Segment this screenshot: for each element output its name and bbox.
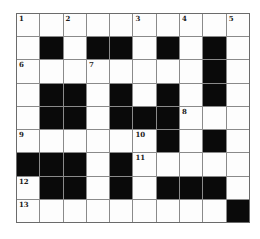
grid-cell[interactable] [157, 14, 179, 36]
grid-cell[interactable] [17, 37, 39, 59]
grid-cell[interactable] [203, 107, 225, 129]
grid-cell[interactable] [17, 107, 39, 129]
grid-cell[interactable] [227, 177, 249, 199]
grid-cell[interactable] [133, 84, 155, 106]
grid-cell[interactable] [40, 200, 62, 222]
page-background: { "puzzle": { "type": "crossword-grid", … [0, 0, 260, 239]
grid-cell[interactable]: 13 [17, 200, 39, 222]
grid-cell[interactable] [133, 60, 155, 82]
grid-cell[interactable] [180, 130, 202, 152]
grid-cell[interactable] [203, 153, 225, 175]
grid-cell[interactable] [180, 37, 202, 59]
clue-number: 1 [19, 14, 24, 23]
black-cell [64, 84, 86, 106]
crossword-grid: 12345678910111213 [16, 13, 250, 223]
black-cell [203, 130, 225, 152]
grid-cell[interactable] [64, 37, 86, 59]
grid-cell[interactable] [87, 177, 109, 199]
grid-cell[interactable]: 10 [133, 130, 155, 152]
grid-cell[interactable] [133, 177, 155, 199]
grid-cell[interactable]: 11 [133, 153, 155, 175]
grid-cell[interactable] [87, 14, 109, 36]
grid-cell[interactable] [157, 200, 179, 222]
clue-number: 2 [66, 14, 71, 23]
clue-number: 12 [19, 177, 28, 186]
black-cell [40, 37, 62, 59]
grid-cell[interactable] [203, 14, 225, 36]
grid-cell[interactable]: 3 [133, 14, 155, 36]
black-cell [64, 107, 86, 129]
black-cell [110, 177, 132, 199]
grid-cell[interactable] [87, 130, 109, 152]
black-cell [133, 107, 155, 129]
black-cell [157, 37, 179, 59]
black-cell [157, 84, 179, 106]
grid-cell[interactable] [40, 14, 62, 36]
black-cell [157, 130, 179, 152]
grid-cell[interactable] [227, 84, 249, 106]
black-cell [40, 177, 62, 199]
grid-cell[interactable] [64, 200, 86, 222]
grid-cell[interactable] [157, 60, 179, 82]
grid-cell[interactable] [133, 37, 155, 59]
grid-cell[interactable]: 7 [87, 60, 109, 82]
black-cell [180, 177, 202, 199]
grid-cell[interactable] [227, 107, 249, 129]
black-cell [203, 84, 225, 106]
black-cell [64, 153, 86, 175]
grid-cell[interactable] [40, 130, 62, 152]
grid-cell[interactable] [227, 60, 249, 82]
grid-cell[interactable] [227, 130, 249, 152]
black-cell [87, 37, 109, 59]
clue-number: 6 [19, 60, 24, 69]
black-cell [203, 60, 225, 82]
black-cell [203, 37, 225, 59]
grid-cell[interactable]: 12 [17, 177, 39, 199]
grid-cell[interactable] [40, 60, 62, 82]
grid-cell[interactable] [180, 200, 202, 222]
grid-cell[interactable]: 2 [64, 14, 86, 36]
black-cell [110, 107, 132, 129]
grid-cell[interactable]: 1 [17, 14, 39, 36]
grid-cell[interactable] [87, 153, 109, 175]
clue-number: 9 [19, 130, 24, 139]
grid-cell[interactable]: 9 [17, 130, 39, 152]
black-cell [40, 84, 62, 106]
grid-cell[interactable] [180, 60, 202, 82]
grid-cell[interactable]: 8 [180, 107, 202, 129]
black-cell [17, 153, 39, 175]
grid-cell[interactable] [203, 200, 225, 222]
grid-cell[interactable] [110, 200, 132, 222]
grid-cell[interactable] [87, 84, 109, 106]
black-cell [40, 153, 62, 175]
clue-number: 10 [135, 130, 144, 139]
grid-cell[interactable] [87, 107, 109, 129]
grid-cell[interactable] [180, 84, 202, 106]
clue-number: 13 [19, 200, 28, 209]
clue-number: 3 [135, 14, 140, 23]
grid-cell[interactable] [110, 130, 132, 152]
grid-cell[interactable] [227, 37, 249, 59]
grid-cell[interactable] [17, 84, 39, 106]
grid-cell[interactable] [64, 60, 86, 82]
black-cell [157, 107, 179, 129]
black-cell [110, 37, 132, 59]
black-cell [110, 153, 132, 175]
black-cell [110, 84, 132, 106]
black-cell [40, 107, 62, 129]
grid-cell[interactable] [110, 60, 132, 82]
grid-cell[interactable] [227, 153, 249, 175]
grid-cell[interactable] [110, 14, 132, 36]
black-cell [64, 177, 86, 199]
clue-number: 7 [89, 60, 94, 69]
grid-cell[interactable] [64, 130, 86, 152]
clue-number: 8 [182, 107, 187, 116]
grid-cell[interactable] [180, 153, 202, 175]
grid-cell[interactable]: 6 [17, 60, 39, 82]
clue-number: 4 [182, 14, 187, 23]
grid-cell[interactable] [87, 200, 109, 222]
grid-cell[interactable]: 4 [180, 14, 202, 36]
grid-cell[interactable] [133, 200, 155, 222]
grid-cell[interactable] [157, 153, 179, 175]
grid-cell[interactable]: 5 [227, 14, 249, 36]
